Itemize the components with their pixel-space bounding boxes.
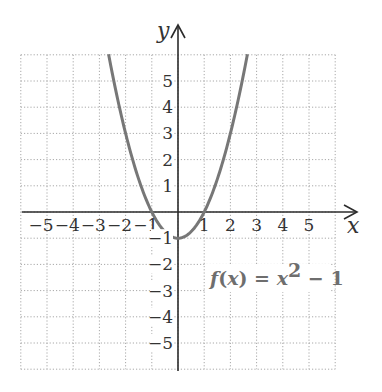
svg-text:f(x) = x2 − 1: f(x) = x2 − 1	[208, 259, 344, 289]
x-tick-label: −3	[81, 215, 106, 235]
y-tick-label: 1	[162, 176, 173, 196]
y-tick-label: −3	[148, 281, 173, 301]
y-tick-label: 4	[162, 97, 173, 117]
y-tick-label: −1	[148, 228, 173, 248]
function-arg: x	[226, 267, 239, 289]
y-axis-label: y	[156, 18, 170, 43]
x-tick-label: 2	[225, 215, 236, 235]
x-tick-label: 4	[277, 215, 288, 235]
x-axis-label: x	[347, 213, 360, 238]
y-tick-label: −5	[148, 333, 173, 353]
x-tick-label: 3	[251, 215, 262, 235]
axes	[22, 25, 357, 371]
x-tick-label: 5	[304, 215, 315, 235]
function-graph: −5−4−3−2−11234554321−1−2−3−4−5 x y f(x) …	[0, 0, 382, 392]
y-tick-label: 3	[162, 123, 173, 143]
function-exponent: 2	[288, 259, 301, 281]
function-rhs-base: x	[276, 267, 289, 289]
y-tick-label: 2	[162, 150, 173, 170]
x-tick-label: −5	[28, 215, 53, 235]
x-tick-label: 1	[199, 215, 210, 235]
y-tick-label: −2	[148, 254, 173, 274]
y-tick-label: −4	[148, 307, 173, 327]
x-tick-label: −4	[55, 215, 80, 235]
function-rhs-rest: − 1	[308, 267, 344, 289]
y-tick-label: 5	[162, 71, 173, 91]
x-tick-label: −2	[107, 215, 132, 235]
